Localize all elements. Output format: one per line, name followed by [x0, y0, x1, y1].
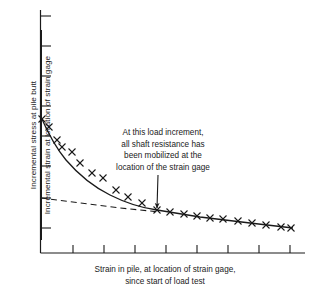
dashed-trend-line [41, 198, 160, 212]
x-axis-label-line-1: Strain in pile, at location of strain ga… [40, 264, 290, 276]
x-axis-label: Strain in pile, at location of strain ga… [40, 264, 290, 288]
y-axis-label: Incremental stress at pile butt Incremen… [24, 30, 58, 240]
x-axis-ticks [73, 245, 290, 253]
y-axis-label-denominator: Incremental strain at location of strain… [43, 56, 53, 214]
annotation-line-2: all shaft resistance has [96, 139, 230, 151]
annotation-line-4: location of the strain gage [96, 162, 230, 174]
annotation-text: At this load increment, all shaft resist… [96, 127, 230, 174]
annotation-line-3: been mobilized at the [96, 150, 230, 162]
x-axis-label-line-2: since start of load test [40, 276, 290, 288]
figure-container: Incremental stress at pile butt Incremen… [0, 0, 316, 293]
y-axis-label-numerator: Incremental stress at pile butt [29, 81, 39, 189]
annotation-line-1: At this load increment, [96, 127, 230, 139]
annotation-arrow [157, 175, 158, 208]
y-axis-label-fraction-rule [41, 30, 42, 240]
